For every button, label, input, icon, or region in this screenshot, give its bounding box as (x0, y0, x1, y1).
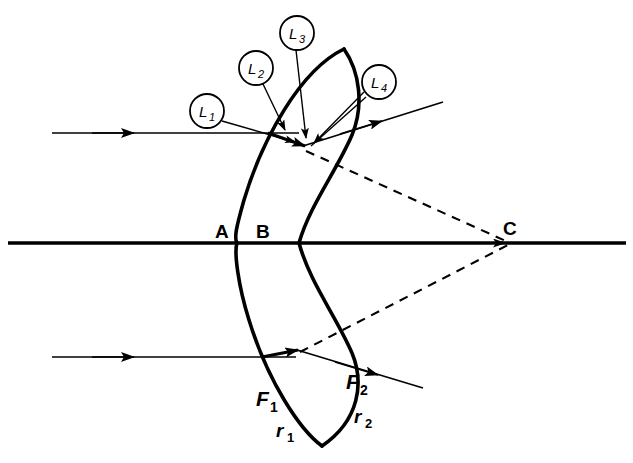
label-f1-subscript: 1 (270, 399, 278, 415)
optics-figure: L 1 L 2 L 3 L 4 A B C F 1 F 2 (0, 0, 633, 463)
label-f1: F (256, 387, 270, 410)
label-r2: r (354, 406, 363, 427)
label-point-b: B (256, 221, 270, 242)
callout-label-l2: L (248, 60, 256, 77)
leader-line-l3 (296, 50, 306, 138)
leader-line-l2 (263, 84, 285, 130)
incident-rays-group (52, 133, 299, 357)
internal-ray-lower (262, 350, 298, 357)
callout-label-l1: L (199, 103, 207, 120)
dashed-construction-upper (306, 151, 508, 242)
callout-subscript-l4: 4 (381, 82, 387, 94)
label-f1-group: F 1 (256, 387, 278, 415)
label-r1-group: r 1 (276, 420, 294, 445)
callout-l3[interactable]: L 3 (280, 16, 314, 50)
leader-line-l1 (222, 121, 295, 142)
construction-lines-group (300, 151, 508, 352)
label-r2-group: r 2 (354, 406, 372, 431)
callout-l4[interactable]: L 4 (362, 65, 396, 99)
callout-l2[interactable]: L 2 (239, 51, 273, 85)
callout-subscript-l2: 2 (257, 68, 264, 80)
callout-l1[interactable]: L 1 (190, 94, 224, 128)
label-r1: r (276, 420, 285, 441)
label-r2-subscript: 2 (365, 416, 372, 431)
lens-outline-group (236, 49, 359, 446)
lens-surface-a-arc (236, 49, 344, 446)
callout-subscript-l3: 3 (299, 33, 306, 45)
emergent-rays-group (297, 102, 443, 388)
label-point-a: A (215, 221, 229, 242)
label-f2: F (346, 370, 360, 393)
emergent-ray-upper-arrowhead (340, 121, 382, 134)
dashed-construction-lower (300, 245, 508, 352)
callout-subscript-l1: 1 (209, 111, 215, 123)
label-r1-subscript: 1 (287, 430, 294, 445)
label-point-c: C (503, 218, 517, 239)
callout-label-l3: L (289, 25, 297, 42)
figure-canvas: L 1 L 2 L 3 L 4 A B C F 1 F 2 (0, 0, 633, 463)
callout-label-l4: L (371, 74, 379, 91)
label-f2-subscript: 2 (360, 382, 368, 398)
